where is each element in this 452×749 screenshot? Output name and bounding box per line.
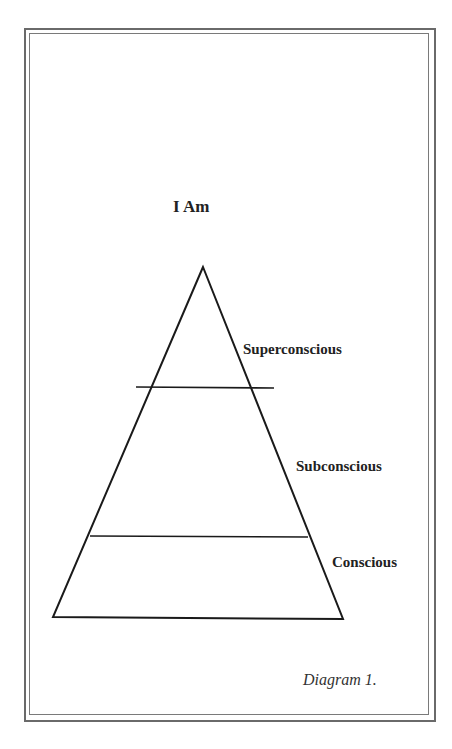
layer-label-superconscious: Superconscious [243, 341, 342, 358]
layer-label-conscious: Conscious [332, 554, 397, 571]
layer-label-subconscious: Subconscious [296, 458, 382, 475]
pyramid-diagram [0, 0, 452, 749]
superconscious-divider [136, 387, 274, 388]
pyramid-triangle [53, 267, 343, 619]
subconscious-divider [90, 536, 308, 537]
diagram-caption: Diagram 1. [303, 671, 377, 689]
